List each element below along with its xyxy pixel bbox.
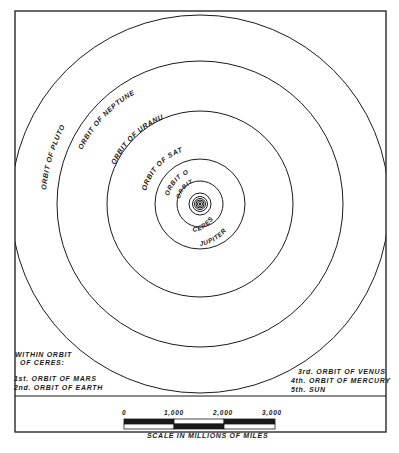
note-item-mercury: 4th. ORBIT OF MERCURY (291, 376, 391, 385)
scale-tick-3000: 3,000 (262, 408, 282, 417)
scale-tick-0: 0 (122, 408, 126, 417)
label-orbit-jupiter-top: ORBIT OF (0, 0, 189, 196)
label-orbit-pluto: ORBIT OF PLUTO (40, 123, 66, 190)
scale-tick-2000: 2,000 (213, 408, 233, 417)
note-item-mars: 1st. ORBIT OF MARS (14, 374, 97, 383)
scale-caption: SCALE IN MILLIONS OF MILES (147, 431, 268, 440)
scale-tick-1000: 1,000 (164, 408, 184, 417)
within-ceres-heading-2: OF CERES: (20, 358, 64, 367)
label-orbit-ceres-top: ORBIT OF (0, 0, 196, 199)
note-item-sun: 5th. SUN (291, 385, 326, 394)
label-orbit-jupiter-bottom: JUPITER (199, 226, 228, 247)
note-item-venus: 3rd. ORBIT OF VENUS (298, 367, 386, 376)
scale-bar (124, 419, 275, 429)
label-orbit-saturn: ORBIT OF SATURN (0, 0, 184, 191)
sun-icon (199, 203, 202, 206)
note-item-earth: 2nd. ORBIT OF EARTH (14, 383, 103, 392)
